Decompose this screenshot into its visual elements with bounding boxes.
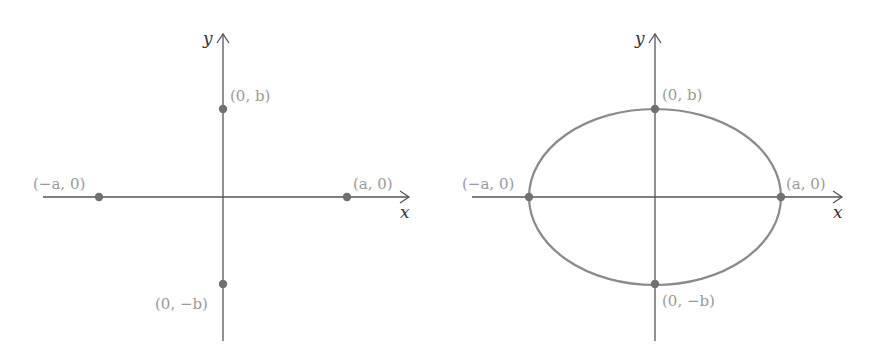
label-0-b: (0, b)	[662, 86, 702, 104]
point-a-0	[343, 193, 351, 201]
label-a-0: (a, 0)	[353, 175, 393, 193]
label-0-neg-b: (0, −b)	[155, 295, 208, 313]
label-0-neg-b: (0, −b)	[662, 292, 715, 310]
point-neg-a-0	[525, 193, 533, 201]
label-a-0: (a, 0)	[786, 175, 826, 193]
point-0-b	[219, 105, 227, 113]
left-figure: y x (0, b) (−a, 0) (a, 0) (0, −b)	[33, 28, 410, 341]
point-a-0	[777, 193, 785, 201]
point-0-b	[651, 105, 659, 113]
point-neg-a-0	[95, 193, 103, 201]
label-neg-a-0: (−a, 0)	[462, 175, 514, 193]
y-axis-label: y	[202, 28, 213, 48]
x-axis-label: x	[400, 202, 410, 222]
x-axis-label: x	[833, 202, 843, 222]
y-axis-label: y	[634, 28, 645, 48]
label-0-b: (0, b)	[230, 87, 270, 105]
label-neg-a-0: (−a, 0)	[33, 175, 85, 193]
diagram-canvas: y x (0, b) (−a, 0) (a, 0) (0, −b) y x (0…	[0, 0, 871, 354]
right-figure: y x (0, b) (−a, 0) (a, 0) (0, −b)	[462, 28, 843, 341]
point-0-neg-b	[651, 280, 659, 288]
point-0-neg-b	[219, 280, 227, 288]
